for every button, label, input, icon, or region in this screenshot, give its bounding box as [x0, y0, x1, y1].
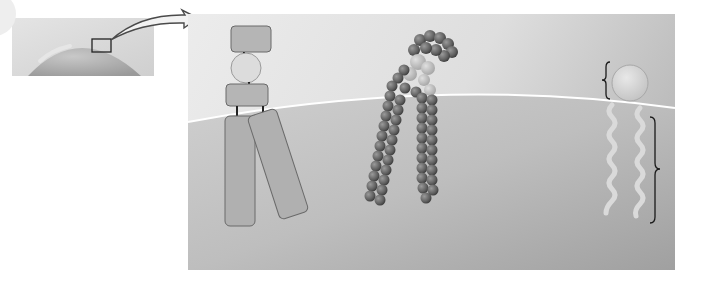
phospholipid-figure	[0, 0, 710, 292]
glycerol-box	[226, 84, 268, 106]
hydrophilic-head-icon	[612, 65, 648, 101]
phosphate-circle	[231, 53, 261, 83]
head-group-box	[231, 26, 271, 52]
fatty-acid-tail-1	[225, 116, 255, 226]
